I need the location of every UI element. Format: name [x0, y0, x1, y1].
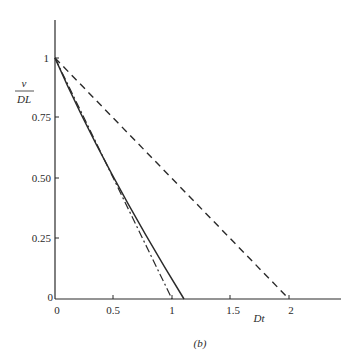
- y-tick-0: 0: [48, 291, 54, 303]
- chart: 1 0.75 0.50 0.25 0 0 0.5 1 1.5 2 v DL Dt…: [0, 0, 357, 363]
- y-axis-label-numerator: v: [22, 77, 27, 89]
- series-dashed: [55, 58, 289, 299]
- y-tick-1: 1: [44, 52, 50, 64]
- figure-caption: (b): [194, 337, 207, 350]
- series-solid: [55, 58, 184, 299]
- y-tick-075: 0.75: [32, 111, 52, 123]
- x-tick-1: 1: [169, 304, 175, 316]
- x-tick-15: 1.5: [226, 304, 240, 316]
- y-axis-label-denominator: DL: [16, 93, 31, 105]
- x-tick-05: 0.5: [106, 304, 120, 316]
- x-tick-0: 0: [54, 304, 60, 316]
- y-tick-025: 0.25: [32, 232, 52, 244]
- x-axis-label: Dt: [253, 312, 266, 324]
- x-tick-2: 2: [288, 304, 294, 316]
- y-tick-050: 0.50: [32, 172, 52, 184]
